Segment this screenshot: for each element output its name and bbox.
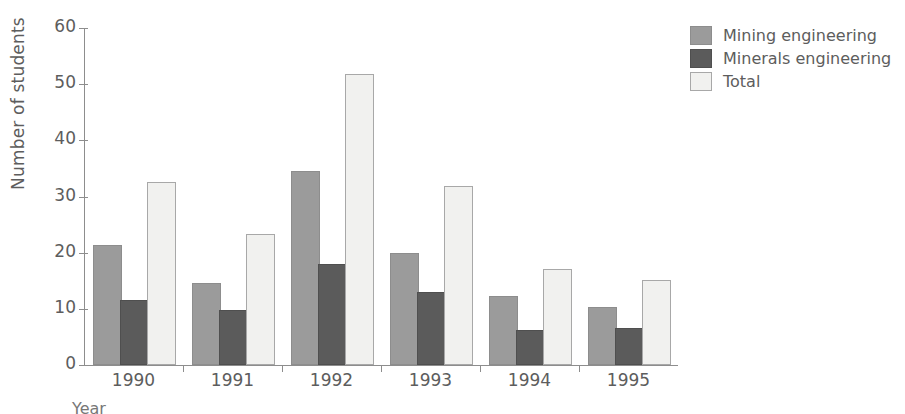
bar-group [588, 28, 669, 365]
y-axis-tick-label: 60 [36, 16, 76, 36]
y-axis-tick-label: 20 [36, 241, 76, 261]
bar [615, 328, 644, 365]
bar [192, 283, 221, 365]
bar [291, 171, 320, 365]
x-axis-tick-label: 1994 [480, 370, 579, 390]
y-axis-tick-label: 40 [36, 128, 76, 148]
bar [93, 245, 122, 365]
bar [345, 74, 374, 365]
legend-item: Minerals engineering [690, 47, 900, 69]
bar-group [93, 28, 174, 365]
legend-label: Total [723, 72, 760, 91]
bar [543, 269, 572, 365]
bar [489, 296, 518, 365]
plot-area [84, 28, 678, 365]
bar [642, 280, 671, 365]
bar [444, 186, 473, 365]
y-axis-tick-label: 0 [36, 353, 76, 373]
bar [120, 300, 149, 365]
bar-chart: Number of students 0102030405060 1990199… [0, 0, 905, 414]
chart-legend: Mining engineeringMinerals engineeringTo… [690, 24, 900, 93]
legend-label: Minerals engineering [723, 49, 891, 68]
x-axis-title: Year [72, 399, 106, 414]
legend-swatch [690, 49, 712, 68]
bar [246, 234, 275, 365]
x-axis-tick-label: 1992 [282, 370, 381, 390]
y-axis-tick-label: 30 [36, 185, 76, 205]
legend-item: Mining engineering [690, 24, 900, 46]
legend-swatch [690, 26, 712, 45]
bar [417, 292, 446, 365]
legend-item: Total [690, 70, 900, 92]
bar [390, 253, 419, 365]
legend-swatch [690, 72, 712, 91]
y-axis-tick-label: 50 [36, 72, 76, 92]
legend-label: Mining engineering [723, 26, 877, 45]
x-axis-tick-label: 1993 [381, 370, 480, 390]
bar-group [192, 28, 273, 365]
y-axis-ticks: 0102030405060 [0, 0, 90, 414]
x-axis-tick-label: 1991 [183, 370, 282, 390]
bar [219, 310, 248, 365]
bar [516, 330, 545, 365]
bar-group [390, 28, 471, 365]
bar-group [489, 28, 570, 365]
x-axis-tick-label: 1990 [84, 370, 183, 390]
bar-group [291, 28, 372, 365]
x-axis-tick-labels: 199019911992199319941995 [84, 370, 678, 396]
y-axis-tick-label: 10 [36, 297, 76, 317]
x-axis-tick-label: 1995 [579, 370, 678, 390]
bar [588, 307, 617, 365]
bar [318, 264, 347, 365]
bar [147, 182, 176, 365]
